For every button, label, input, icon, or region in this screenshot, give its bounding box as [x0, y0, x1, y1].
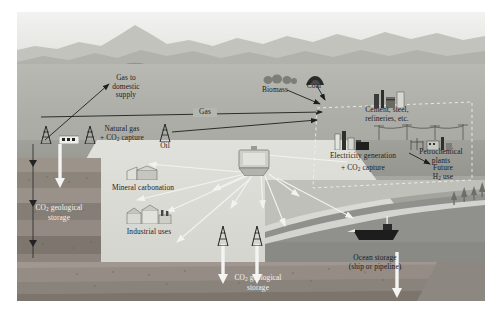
future-h2-line2: H2 use: [421, 173, 465, 183]
label-industrial-uses: Industrial uses: [109, 228, 189, 237]
injection-derrick-icon-2: [249, 226, 265, 246]
label-natural-gas-capture: Natural gas + CO2 capture: [85, 125, 159, 143]
co2-geo-bottom-line2: storage: [213, 284, 303, 293]
label-mineral-carbonation: Mineral carbonation: [93, 184, 193, 193]
injection-derrick-icon-1: [215, 226, 231, 246]
label-electricity-generation: Electricity generation: [311, 152, 415, 161]
cement-line2: refineries, etc.: [343, 115, 431, 124]
gas-domestic-line3: supply: [95, 91, 157, 100]
ocean-storage-line2: (ship or pipeline): [323, 263, 427, 272]
label-cement-steel-refineries: Cement, steel, refineries, etc.: [343, 106, 431, 123]
label-co2-geological-storage-bottom: CO2 geological storage: [213, 274, 303, 292]
label-gas: Gas: [193, 108, 217, 117]
power-plant-icon: [333, 130, 371, 150]
oil-derrick-icon: [157, 124, 173, 142]
industrial-buildings-icon: [125, 204, 173, 224]
label-gas-to-domestic-supply: Gas to domestic supply: [95, 74, 157, 100]
label-ocean-storage: Ocean storage (ship or pipeline): [323, 254, 427, 271]
mineral-carbonation-plant-icon: [125, 164, 159, 180]
label-biomass: Biomass: [255, 86, 295, 95]
natural-gas-line2: + CO2 capture: [85, 134, 159, 144]
transmission-pylons-icon: [373, 122, 469, 140]
label-future-h2-use: Future H2 use: [421, 164, 465, 182]
gas-rig-icon: [37, 126, 55, 144]
ship-icon: [347, 216, 403, 242]
co2-geo-left-line2: storage: [19, 214, 99, 223]
label-electricity-co2-capture: + CO2 capture: [323, 164, 403, 174]
ccs-schematic-figure: Gas to domestic supply Gas Natural gas +…: [17, 12, 485, 301]
label-oil: Oil: [154, 142, 176, 151]
label-coal: Coal: [301, 82, 327, 91]
label-co2-geological-storage-left: CO2 geological storage: [19, 204, 99, 222]
co2-storage-tank-icon: [235, 146, 273, 176]
gas-processing-building-icon: [59, 134, 79, 144]
